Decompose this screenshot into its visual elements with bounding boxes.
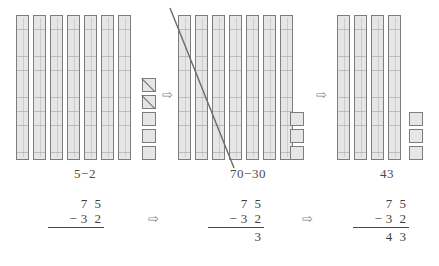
stage-label-ones: 5−2 xyxy=(40,166,130,182)
units-group-stage-ones xyxy=(142,78,156,160)
arrow-sums-1-2-icon: ⇨ xyxy=(148,212,159,225)
subtrahend-row: −3 2 xyxy=(48,211,104,228)
result xyxy=(48,228,104,229)
vertical-subtraction-stage-ones: 7 5 −3 2 xyxy=(48,196,104,229)
ten-rod xyxy=(16,15,29,160)
unit-cube xyxy=(290,112,304,126)
ten-rod-struck xyxy=(178,15,191,160)
result: 3 xyxy=(208,228,264,244)
blocks-group-stage-tens xyxy=(178,12,318,160)
unit-cube xyxy=(409,112,423,126)
vertical-subtraction-stage-tens: 7 5 −3 2 3 xyxy=(208,196,264,244)
rods-group-stage-answer xyxy=(337,15,401,160)
unit-cube xyxy=(142,112,156,126)
ten-rod xyxy=(67,15,80,160)
rods-group-stage-tens xyxy=(178,15,293,160)
units-group-stage-tens xyxy=(290,112,304,160)
units-group-stage-answer xyxy=(409,112,423,160)
minuend: 7 5 xyxy=(353,196,409,211)
unit-cube xyxy=(290,129,304,143)
arrow-blocks-1-2-icon: ⇨ xyxy=(162,88,173,101)
ten-rod xyxy=(263,15,276,160)
unit-cube-struck xyxy=(142,78,156,92)
subtrahend-row: −3 2 xyxy=(353,211,409,228)
subtrahend: 3 2 xyxy=(81,211,103,226)
ten-rod xyxy=(33,15,46,160)
rods-group-stage-ones xyxy=(16,15,131,160)
stage-answer: 43 7 5 −3 2 4 3 xyxy=(333,0,439,266)
arrow-blocks-2-3-icon: ⇨ xyxy=(316,88,327,101)
unit-cube xyxy=(409,129,423,143)
blocks-group-stage-answer xyxy=(337,12,433,160)
minuend: 7 5 xyxy=(208,196,264,211)
minuend: 7 5 xyxy=(48,196,104,211)
ten-rod-struck xyxy=(195,15,208,160)
subtrahend: 3 2 xyxy=(241,211,263,226)
subtrahend: 3 2 xyxy=(386,211,408,226)
blocks-group-stage-ones xyxy=(16,12,162,160)
ten-rod-struck xyxy=(212,15,225,160)
vertical-subtraction-stage-answer: 7 5 −3 2 4 3 xyxy=(353,196,409,244)
stage-label-answer: 43 xyxy=(347,166,427,182)
minus-operator: − xyxy=(69,211,78,226)
ten-rod xyxy=(229,15,242,160)
unit-cube xyxy=(142,146,156,160)
stage-tens: 70−30 7 5 −3 2 3 xyxy=(178,0,333,266)
ten-rod xyxy=(246,15,259,160)
unit-cube-struck xyxy=(142,95,156,109)
stage-label-tens: 70−30 xyxy=(198,166,298,182)
ten-rod xyxy=(118,15,131,160)
ten-rod xyxy=(101,15,114,160)
ten-rod xyxy=(354,15,367,160)
unit-cube xyxy=(290,146,304,160)
ten-rod xyxy=(337,15,350,160)
unit-cube xyxy=(409,146,423,160)
minus-operator: − xyxy=(229,211,238,226)
subtrahend-row: −3 2 xyxy=(208,211,264,228)
unit-cube xyxy=(142,129,156,143)
ten-rod xyxy=(371,15,384,160)
arrow-sums-2-3-icon: ⇨ xyxy=(302,212,313,225)
ten-rod xyxy=(84,15,97,160)
minus-operator: − xyxy=(374,211,383,226)
ten-rod xyxy=(50,15,63,160)
stage-ones: 5−2 7 5 −3 2 xyxy=(0,0,170,266)
result: 4 3 xyxy=(353,228,409,244)
ten-rod xyxy=(388,15,401,160)
